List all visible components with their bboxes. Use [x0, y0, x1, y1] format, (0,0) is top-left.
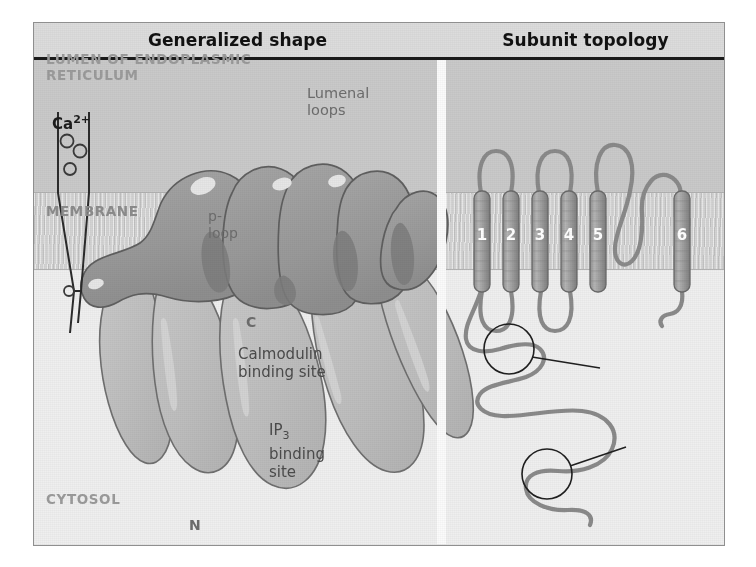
- helix-number-6: 6: [674, 226, 690, 244]
- lumenal-loop-5-p: [596, 145, 632, 193]
- calcium-ion-label: Ca2+: [52, 113, 90, 133]
- ip3-binding-site-label: IP3binding site: [269, 421, 325, 481]
- n-terminus-label: N: [189, 517, 201, 533]
- figure-root: Generalized shape Subunit topology LUMEN…: [0, 0, 756, 567]
- cytosolic-loop-4-5: [539, 291, 571, 331]
- helix-number-1: 1: [474, 226, 490, 244]
- calcium-symbol: Ca: [52, 115, 73, 133]
- right-panel-artwork: [34, 23, 724, 545]
- panel-divider: [437, 60, 446, 544]
- ip3-label-subscript: 3: [282, 429, 289, 442]
- cytosolic-loop-2-3: [480, 291, 512, 331]
- helix-number-4: 4: [561, 226, 577, 244]
- cytosol-label: CYTOSOL: [46, 491, 120, 507]
- helix-number-2: 2: [503, 226, 519, 244]
- p-loop-label: p- loop: [208, 208, 238, 242]
- c-terminal-tail: [660, 291, 682, 326]
- membrane-label: MEMBRANE: [46, 203, 139, 219]
- lumenal-loop-3-4: [537, 151, 571, 193]
- helix-number-5: 5: [590, 226, 606, 244]
- lumenal-loop-1-2: [479, 151, 512, 193]
- subunit-topology-group: [466, 145, 690, 525]
- calcium-charge: 2+: [73, 113, 90, 126]
- figure-plate: Generalized shape Subunit topology LUMEN…: [33, 22, 725, 546]
- p-loop-reentrant: [615, 175, 681, 265]
- ip3-binding-circle: [522, 449, 572, 499]
- calmodulin-binding-site-label: Calmodulin binding site: [238, 345, 326, 381]
- ip3-label-rest: binding site: [269, 445, 325, 481]
- panel-title-subunit-topology: Subunit topology: [447, 23, 724, 57]
- c-terminus-label: C: [246, 314, 256, 330]
- ip3-label-main: IP: [269, 421, 282, 439]
- lumen-label: LUMEN OF ENDOPLASMIC RETICULUM: [46, 51, 251, 83]
- lumenal-loops-label: Lumenal loops: [307, 85, 369, 119]
- helix-number-3: 3: [532, 226, 548, 244]
